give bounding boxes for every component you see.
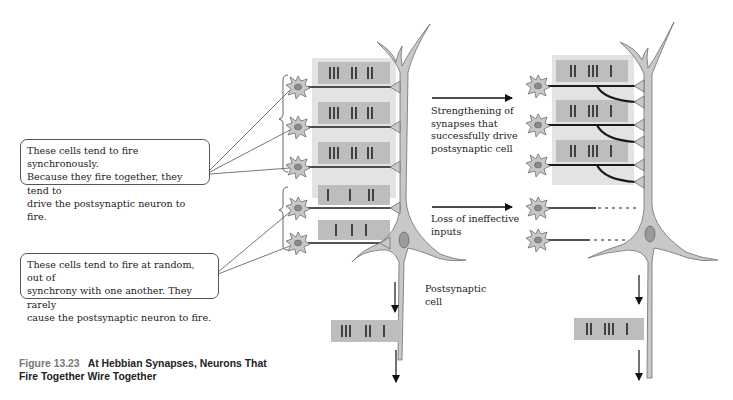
after-train-1 xyxy=(556,60,628,82)
label-strengthening: Strengthening of synapses that successfu… xyxy=(431,105,518,155)
label-postsynaptic-line1: Postsynaptic xyxy=(425,283,486,296)
callout-synchronous: These cells tend to fire synchronously. … xyxy=(20,139,210,185)
figure-title-line1: At Hebbian Synapses, Neurons That xyxy=(88,358,267,369)
callout-sync-line3: drive the postsynaptic neuron to fire. xyxy=(27,197,203,223)
callout-random-line1: These cells tend to fire at random, out … xyxy=(27,258,212,284)
right-panel-after xyxy=(526,22,718,380)
figure-title-line2: Fire Together Wire Together xyxy=(19,370,267,383)
after-train-2 xyxy=(556,100,628,122)
callout-random-line2: synchrony with one another. They rarely xyxy=(27,284,212,310)
label-strengthening-line4: postsynaptic cell xyxy=(431,143,518,156)
label-loss-line1: Loss of ineffective xyxy=(431,213,519,226)
label-postsynaptic-line2: cell xyxy=(425,296,486,309)
figure-number: Figure 13.23 xyxy=(19,358,80,369)
label-postsynaptic-cell: Postsynaptic cell xyxy=(425,283,486,308)
callout-sync-line2: Because they fire together, they tend to xyxy=(27,170,203,196)
async-train-2 xyxy=(318,220,390,240)
label-loss-line2: inputs xyxy=(431,226,519,239)
callout-random: These cells tend to fire at random, out … xyxy=(20,253,219,299)
output-train-left xyxy=(331,320,401,342)
output-train-right xyxy=(574,318,644,340)
label-strengthening-line3: successfully drive xyxy=(431,130,518,143)
callout-random-line3: cause the postsynaptic neuron to fire. xyxy=(27,311,212,324)
sync-train-3 xyxy=(318,142,390,164)
left-panel-before xyxy=(210,24,466,382)
label-loss-of-inputs: Loss of ineffective inputs xyxy=(431,213,519,238)
sync-train-1 xyxy=(318,62,390,84)
label-strengthening-line1: Strengthening of xyxy=(431,105,518,118)
after-train-3 xyxy=(556,140,628,162)
figure-caption: Figure 13.23At Hebbian Synapses, Neurons… xyxy=(19,357,267,383)
async-train-1 xyxy=(318,185,390,205)
callout-sync-line1: These cells tend to fire synchronously. xyxy=(27,144,203,170)
hebbian-synapse-diagram: These cells tend to fire synchronously. … xyxy=(0,0,733,400)
sync-train-2 xyxy=(318,102,390,124)
label-strengthening-line2: synapses that xyxy=(431,118,518,131)
